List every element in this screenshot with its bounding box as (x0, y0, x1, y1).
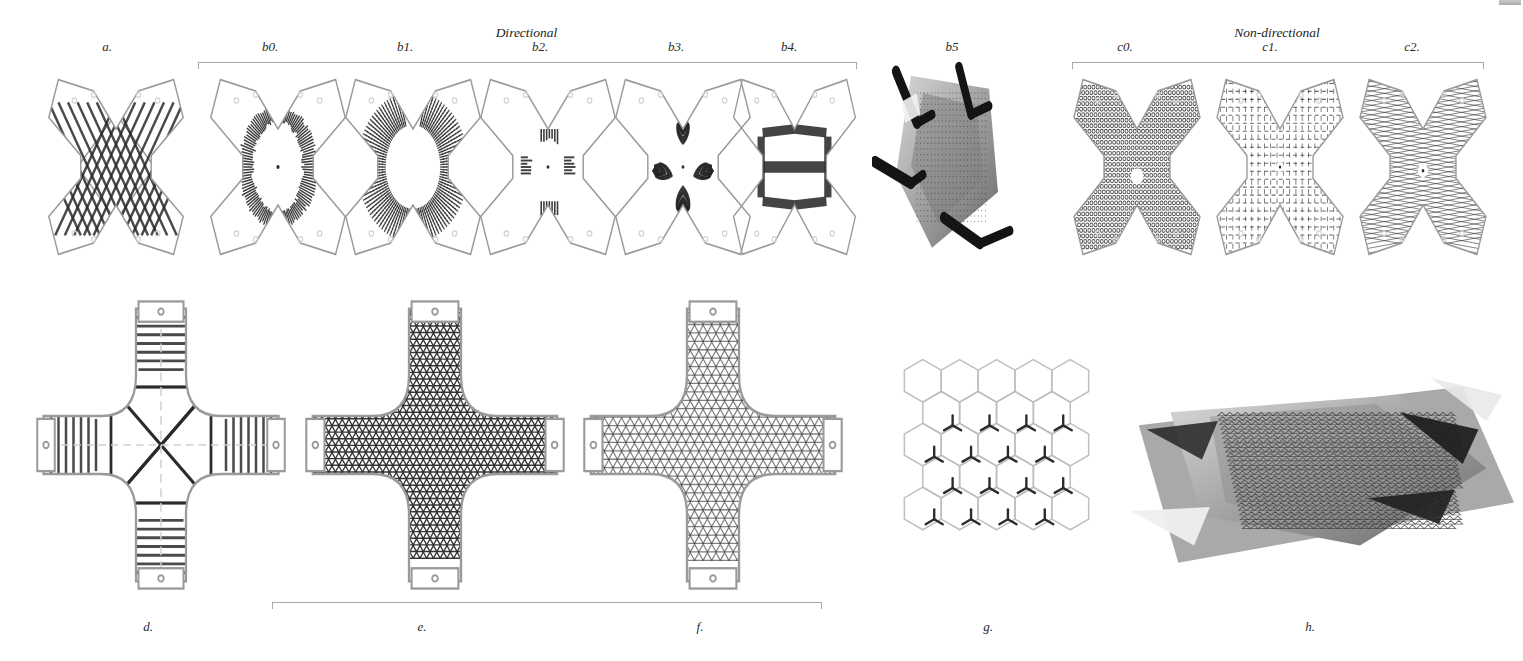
panel-label-c1: c1. (1250, 40, 1290, 53)
group-label-non-directional: Non-directional (1072, 25, 1482, 41)
bracket-directional (198, 62, 857, 69)
panel-label-e: e. (402, 620, 442, 633)
panel-a (36, 72, 196, 262)
panel-g (900, 358, 1090, 548)
panel-label-c2: c2. (1392, 40, 1432, 53)
panel-b4 (722, 72, 867, 262)
panel-label-b0: b0. (250, 40, 290, 53)
panel-f (583, 300, 843, 590)
panel-label-a: a. (87, 40, 127, 53)
panel-label-b3: b3. (656, 40, 696, 53)
panel-e (305, 300, 565, 590)
bracket-non-directional (1072, 62, 1484, 69)
panel-c1 (1205, 72, 1355, 262)
group-label-directional: Directional (198, 25, 855, 41)
panel-b5 (872, 50, 1022, 265)
page-corner-mark (1499, 0, 1521, 5)
panel-label-c0: c0. (1105, 40, 1145, 53)
panel-c0 (1062, 72, 1212, 262)
panel-d (36, 300, 286, 590)
panel-label-b4: b4. (769, 40, 809, 53)
figure-plate: a.b0.b1.b2.b3.b4.b5c0.c1.c2.d.e.f.g.h.Di… (0, 0, 1523, 661)
panel-label-b1: b1. (385, 40, 425, 53)
panel-h (1123, 365, 1518, 580)
panel-label-g: g. (968, 620, 1008, 633)
panel-label-h: h. (1290, 620, 1330, 633)
panel-label-f: f. (680, 620, 720, 633)
panel-c2 (1348, 72, 1498, 262)
panel-label-b2: b2. (520, 40, 560, 53)
bracket-ef-group (272, 602, 822, 609)
panel-label-d: d. (128, 620, 168, 633)
